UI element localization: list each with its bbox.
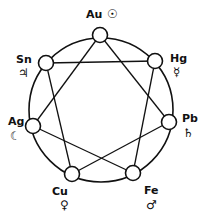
- sun-symbol-icon: ☉: [107, 8, 118, 20]
- saturn-symbol-icon: ♄: [183, 127, 194, 139]
- element-label-cu: Cu: [52, 186, 68, 197]
- edge-sn-hg: [46, 61, 155, 63]
- element-label-sn: Sn: [16, 54, 32, 65]
- jupiter-symbol-icon: ♃: [18, 67, 29, 79]
- edge-hg-fe: [133, 61, 155, 173]
- node-au: [93, 28, 108, 43]
- node-sn: [39, 56, 54, 71]
- node-ag: [26, 119, 41, 134]
- mars-symbol-icon: ♂: [146, 199, 157, 211]
- node-fe: [126, 166, 141, 181]
- element-label-au: Au: [86, 9, 102, 20]
- venus-symbol-icon: ♀: [60, 199, 69, 211]
- element-label-hg: Hg: [170, 53, 187, 64]
- node-hg: [148, 54, 163, 69]
- element-label-fe: Fe: [144, 185, 159, 196]
- element-label-pb: Pb: [182, 113, 198, 124]
- edge-au-pb: [100, 35, 169, 122]
- moon-symbol-icon: ☾: [10, 130, 21, 142]
- node-cu: [65, 167, 80, 182]
- node-pb: [162, 115, 177, 130]
- mercury-symbol-icon: ☿: [173, 66, 180, 78]
- edge-au-ag: [33, 35, 100, 126]
- heptagram-diagram: [0, 0, 203, 215]
- edge-sn-cu: [46, 63, 72, 174]
- element-label-ag: Ag: [8, 116, 24, 127]
- edge-pb-cu: [72, 122, 169, 174]
